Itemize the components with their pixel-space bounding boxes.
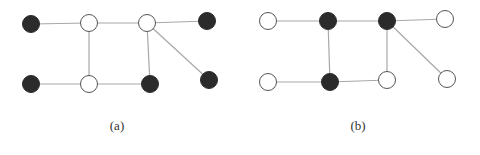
open-node-a3 <box>139 15 156 32</box>
filled-node-a1 <box>23 16 40 33</box>
filled-node-a4 <box>199 13 216 30</box>
filled-node-b2 <box>320 13 337 30</box>
open-node-b1 <box>260 13 277 30</box>
edge-b2-b6 <box>328 21 330 82</box>
panel-a: (a) <box>23 13 218 134</box>
filled-node-b3 <box>379 13 396 30</box>
open-node-a2 <box>81 15 98 32</box>
filled-node-a8 <box>201 72 218 89</box>
edge-a3-a8 <box>147 23 209 80</box>
edge-a3-a7 <box>147 23 150 84</box>
edge-a3-a4 <box>147 21 207 23</box>
panel-a-nodes <box>23 13 218 93</box>
edge-b3-b8 <box>387 21 447 79</box>
panel-a-edges <box>31 21 209 84</box>
filled-node-a5 <box>23 76 40 93</box>
open-node-b8 <box>439 71 456 88</box>
open-node-b5 <box>260 74 277 91</box>
filled-node-a7 <box>142 76 159 93</box>
panel-b: (b) <box>260 11 456 134</box>
open-node-b4 <box>437 11 454 28</box>
open-node-a6 <box>81 76 98 93</box>
filled-node-b6 <box>322 74 339 91</box>
panel-b-nodes <box>260 11 456 91</box>
panel-b-caption: (b) <box>350 118 365 133</box>
panel-b-edges <box>268 19 447 82</box>
panel-a-caption: (a) <box>110 118 124 133</box>
open-node-b7 <box>379 72 396 89</box>
graph-diagram: (a) (b) <box>0 0 480 155</box>
